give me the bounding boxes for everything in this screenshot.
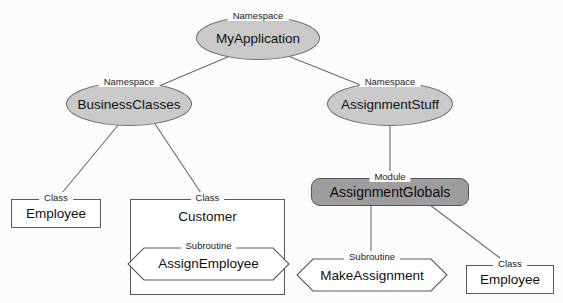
stereotype-label-namespace: Namespace (99, 76, 160, 87)
node-label-assignmentstuff: AssignmentStuff (341, 97, 439, 112)
node-assignmentglobals[interactable]: Module AssignmentGlobals (311, 178, 469, 206)
node-employee-left[interactable]: Class Employee (11, 199, 101, 228)
node-assignmentstuff[interactable]: Namespace AssignmentStuff (327, 82, 453, 126)
node-assignemployee[interactable]: Subroutine AssignEmployee (127, 247, 290, 281)
edge-myapplication-assignmentstuff (288, 56, 363, 86)
node-customer[interactable]: Class Customer Subroutine AssignEmployee (130, 199, 285, 295)
edge-assignmentglobals-employee-right (430, 205, 500, 258)
stereotype-label-class: Class (39, 192, 73, 203)
node-label-employee-left: Employee (26, 206, 86, 221)
stereotype-label-namespace: Namespace (360, 76, 421, 87)
node-label-assignemployee: AssignEmployee (158, 256, 259, 271)
node-label-assignmentglobals: AssignmentGlobals (330, 184, 451, 200)
diagram-canvas: Namespace MyApplication Namespace Busine… (0, 0, 563, 303)
node-label-businessclasses: BusinessClasses (78, 97, 181, 112)
stereotype-label-subroutine: Subroutine (344, 251, 400, 262)
stereotype-label-module: Module (369, 171, 410, 182)
node-makeassignment[interactable]: Subroutine MakeAssignment (296, 258, 448, 292)
stereotype-label-namespace: Namespace (228, 10, 289, 21)
edge-myapplication-businessclasses (159, 56, 230, 86)
edge-businessclasses-employee-left (57, 124, 119, 199)
node-label-myapplication: MyApplication (216, 31, 300, 46)
stereotype-label-class: Class (493, 258, 527, 269)
node-businessclasses[interactable]: Namespace BusinessClasses (66, 82, 192, 126)
node-employee-right[interactable]: Class Employee (466, 265, 554, 294)
node-label-customer: Customer (178, 209, 237, 224)
node-label-makeassignment: MakeAssignment (320, 268, 424, 283)
stereotype-label-subroutine: Subroutine (181, 240, 237, 251)
node-label-employee-right: Employee (480, 272, 540, 287)
edge-businessclasses-customer (155, 124, 205, 199)
node-myapplication[interactable]: Namespace MyApplication (196, 16, 320, 60)
stereotype-label-class: Class (191, 192, 225, 203)
